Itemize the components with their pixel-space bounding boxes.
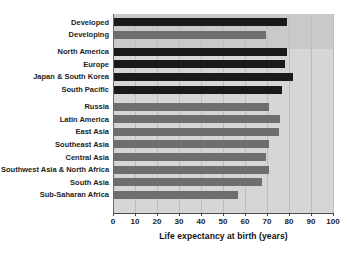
category-label: Southwest Asia & North Africa: [1, 165, 111, 174]
x-tick-label: 50: [212, 217, 234, 227]
bar: [113, 115, 280, 123]
bar: [113, 18, 287, 26]
category-label: South Asia: [1, 178, 111, 187]
x-tick-label: 70: [256, 217, 278, 227]
x-tick-label: 40: [190, 217, 212, 227]
x-tick-label: 30: [168, 217, 190, 227]
bar: [113, 153, 266, 161]
bar: [113, 73, 293, 81]
y-axis-line: [113, 14, 114, 213]
x-tick-label: 0: [102, 217, 124, 227]
bar: [113, 31, 266, 39]
tick-mark-10: [135, 213, 136, 216]
life-expectancy-bar-chart: 0102030405060708090100 DevelopedDevelopi…: [0, 0, 348, 258]
category-label: Developing: [1, 30, 111, 39]
bar: [113, 140, 269, 148]
category-label: Russia: [1, 102, 111, 111]
category-label: Southeast Asia: [1, 140, 111, 149]
category-label: Latin America: [1, 115, 111, 124]
gridline-90: [311, 14, 312, 213]
bar: [113, 191, 238, 199]
category-label: Central Asia: [1, 153, 111, 162]
tick-mark-50: [223, 213, 224, 216]
x-axis-title: Life expectancy at birth (years): [113, 231, 334, 241]
x-tick-label: 10: [124, 217, 146, 227]
category-label: North America: [1, 47, 111, 56]
tick-mark-20: [157, 213, 158, 216]
x-tick-label: 100: [322, 217, 344, 227]
tick-mark-80: [289, 213, 290, 216]
x-tick-label: 90: [300, 217, 322, 227]
tick-mark-40: [201, 213, 202, 216]
tick-mark-90: [311, 213, 312, 216]
bar: [113, 178, 262, 186]
x-tick-label: 60: [234, 217, 256, 227]
category-label: Sub-Saharan Africa: [1, 190, 111, 199]
tick-mark-30: [179, 213, 180, 216]
category-label: East Asia: [1, 127, 111, 136]
category-label: Developed: [1, 18, 111, 27]
gridline-80: [289, 14, 290, 213]
bar: [113, 128, 279, 136]
tick-mark-70: [267, 213, 268, 216]
bar: [113, 103, 269, 111]
category-label: South Pacific: [1, 85, 111, 94]
x-tick-label: 80: [278, 217, 300, 227]
category-label: Europe: [1, 60, 111, 69]
x-tick-label: 20: [146, 217, 168, 227]
tick-mark-100: [333, 213, 334, 216]
category-label: Japan & South Korea: [1, 72, 111, 81]
tick-mark-0: [113, 213, 114, 216]
plot-area: [113, 14, 333, 213]
tick-mark-60: [245, 213, 246, 216]
gridline-70: [267, 14, 268, 213]
bar: [113, 48, 287, 56]
bar: [113, 86, 282, 94]
bar: [113, 166, 269, 174]
bar: [113, 60, 285, 68]
gridline-100: [333, 14, 334, 213]
